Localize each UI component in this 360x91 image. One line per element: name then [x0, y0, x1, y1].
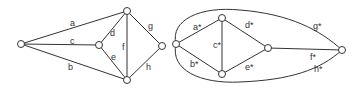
edge-label: g* — [313, 21, 322, 31]
edge-h — [127, 46, 162, 80]
edge-label: b* — [190, 59, 199, 69]
node — [159, 43, 166, 50]
graph-diagram: acbdefgh a*b*c*d*e*f*g*h* — [0, 0, 360, 91]
edge-label: e — [111, 52, 116, 62]
node — [173, 41, 180, 48]
node — [124, 8, 131, 15]
edge-label: d* — [245, 20, 254, 30]
edge-label: a* — [193, 22, 202, 32]
edge-label: c — [70, 36, 75, 46]
edge-b — [21, 44, 127, 80]
node — [219, 15, 226, 22]
edge-label: f — [122, 42, 125, 52]
node — [219, 71, 226, 78]
edge-label: e* — [245, 62, 254, 72]
edge-label: g — [148, 21, 153, 31]
primal-graph: acbdefgh — [18, 8, 166, 84]
dual-graph: a*b*c*d*e*f*g*h* — [173, 9, 346, 82]
edge-label: b — [68, 62, 73, 72]
edge-label: f* — [310, 52, 317, 62]
edge-label: d — [110, 28, 115, 38]
node — [339, 47, 346, 54]
edge-label: a — [70, 18, 75, 28]
edge-label: h* — [314, 64, 323, 74]
node — [18, 41, 25, 48]
node — [124, 77, 131, 84]
node — [96, 42, 103, 49]
edge-g — [127, 11, 162, 46]
edge-c — [21, 44, 99, 45]
edge-label: h — [146, 62, 151, 72]
dual-edge — [268, 48, 342, 50]
node — [265, 45, 272, 52]
edge-label: c* — [213, 40, 222, 50]
